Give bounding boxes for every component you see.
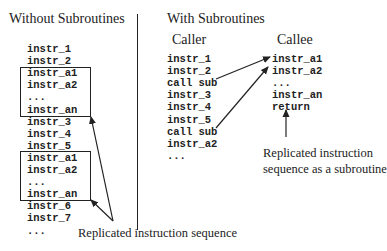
arrow-to-box-1 bbox=[91, 117, 113, 221]
call-arrow-1 bbox=[216, 57, 270, 79]
arrows-layer bbox=[0, 0, 387, 251]
